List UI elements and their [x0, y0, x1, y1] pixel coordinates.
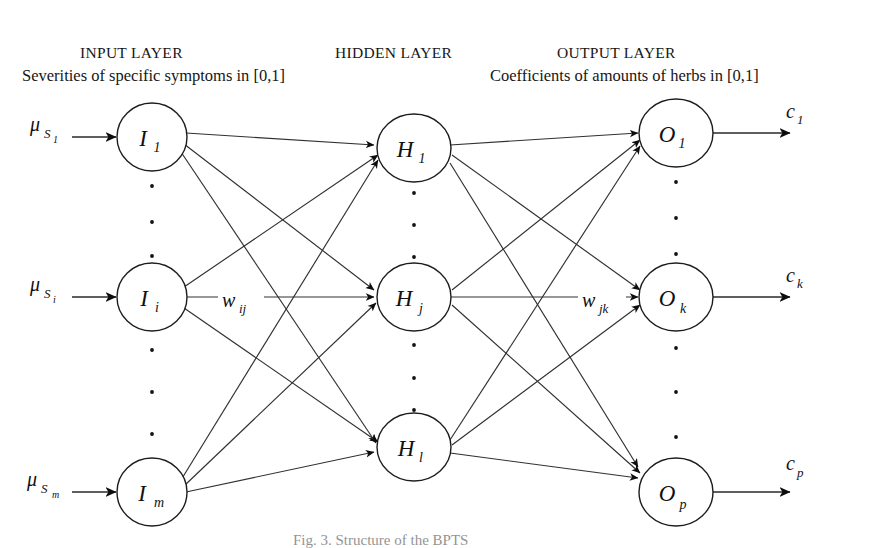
edge-hl-op — [450, 453, 638, 478]
label-cp-base: c — [786, 452, 795, 474]
label-ck: c k — [786, 264, 803, 291]
ellipsis-input-lower — [150, 348, 154, 436]
label-ck-sub: k — [797, 276, 803, 291]
node-o1-subscript: 1 — [679, 136, 686, 151]
edge-h1-o1 — [450, 133, 638, 145]
node-o1-label: O — [659, 122, 676, 147]
label-weight-ij-base: w — [222, 289, 236, 311]
node-i1-subscript: 1 — [154, 140, 161, 155]
node-im[interactable]: I m — [117, 458, 187, 526]
label-weight-ij: w ij — [218, 285, 264, 316]
output-signal-arrows — [713, 133, 790, 492]
ellipsis-output-upper — [674, 180, 678, 256]
label-weight-jk: w jk — [578, 285, 626, 316]
ellipsis-output-lower — [674, 346, 678, 439]
edges-input-to-hidden — [181, 133, 378, 492]
label-mu-si-sub: S — [44, 286, 51, 301]
node-hl-subscript: l — [419, 450, 423, 465]
label-mu-sm-sub2: m — [52, 489, 59, 500]
edge-h1-ok — [452, 155, 640, 290]
ellipsis-hidden-lower — [412, 343, 416, 412]
node-h1[interactable]: H 1 — [377, 114, 451, 182]
node-i1[interactable]: I 1 — [117, 103, 187, 171]
node-h1-subscript: 1 — [419, 151, 426, 166]
label-mu-si-sub2: i — [53, 294, 56, 305]
label-mu-sm-sub: S — [41, 481, 48, 496]
node-ii-label: I — [139, 286, 149, 311]
label-mu-s1: μ S 1 — [29, 113, 58, 145]
edge-im-hj — [184, 303, 376, 486]
label-weight-jk-sub: jk — [597, 301, 609, 316]
node-hj[interactable]: H j — [377, 263, 451, 331]
node-h1-label: H — [396, 137, 415, 162]
edge-h1-op — [450, 163, 638, 467]
node-ok-label: O — [659, 286, 676, 311]
network-diagram: I 1 I i I m H 1 H j H l — [0, 0, 881, 548]
label-mu-sm: μ S m — [26, 468, 59, 500]
label-ck-base: c — [786, 264, 795, 286]
node-hj-label: H — [395, 286, 414, 311]
node-op-label: O — [659, 481, 676, 506]
node-i1-label: I — [138, 126, 148, 151]
node-ok[interactable]: O k — [639, 263, 713, 331]
label-c1-base: c — [786, 100, 795, 122]
node-o1[interactable]: O 1 — [639, 99, 713, 167]
ellipsis-input-upper — [150, 184, 154, 258]
edge-i1-h1 — [186, 133, 374, 145]
node-op-subscript: p — [679, 497, 687, 512]
label-mu-s1-sub2: 1 — [53, 134, 58, 145]
node-ii-subscript: i — [155, 300, 159, 315]
label-weight-jk-base: w — [582, 289, 596, 311]
label-cp: c p — [786, 452, 804, 480]
label-cp-sub: p — [796, 465, 804, 480]
edge-im-h1 — [181, 160, 378, 480]
node-ok-subscript: k — [680, 301, 687, 316]
figure-canvas: INPUT LAYER HIDDEN LAYER OUTPUT LAYER Se… — [0, 0, 881, 548]
node-im-subscript: m — [154, 495, 164, 510]
node-op[interactable]: O p — [639, 458, 713, 526]
label-mu-s1-base: μ — [29, 113, 40, 136]
edge-hj-op — [452, 305, 640, 473]
ellipsis-hidden-upper — [412, 191, 416, 259]
label-c1: c 1 — [786, 100, 804, 127]
label-mu-si: μ S i — [29, 273, 56, 305]
label-mu-si-base: μ — [29, 273, 40, 296]
label-weight-ij-sub: ij — [239, 301, 247, 316]
label-mu-s1-sub: S — [44, 126, 51, 141]
node-ii[interactable]: I i — [117, 263, 187, 331]
input-signal-arrows — [72, 137, 116, 492]
node-im-label: I — [137, 481, 147, 506]
label-c1-sub: 1 — [797, 112, 804, 127]
edge-ii-h1 — [184, 155, 378, 287]
edge-hj-o1 — [452, 140, 640, 290]
node-hl-label: H — [397, 436, 416, 461]
label-mu-sm-base: μ — [26, 468, 37, 491]
node-hl[interactable]: H l — [377, 413, 451, 481]
